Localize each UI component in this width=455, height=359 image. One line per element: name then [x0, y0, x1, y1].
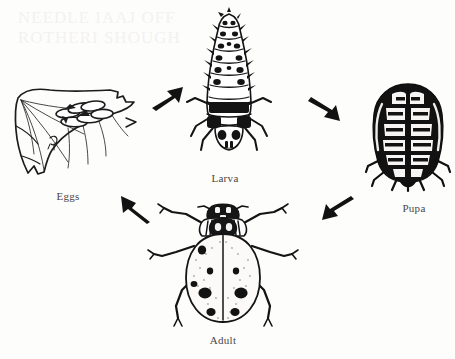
arrow-pupa-to-adult — [320, 196, 356, 224]
arrow-larva-to-pupa — [306, 96, 342, 124]
stage-pupa — [366, 82, 450, 194]
eggs-on-leaf-illustration — [10, 78, 155, 183]
life-cycle-diagram: NEEDLE IAAJ OFF ROTHERI SHOUGH — [0, 0, 455, 359]
arrow-eggs-to-larva — [150, 84, 186, 112]
adult-ladybug-illustration — [148, 198, 298, 332]
larva-illustration — [183, 10, 275, 170]
stage-larva — [183, 10, 275, 170]
stage-eggs — [10, 78, 155, 183]
arrow-adult-to-eggs — [120, 194, 154, 224]
scan-ghost-text: NEEDLE IAAJ OFF — [18, 8, 176, 28]
stage-label-larva: Larva — [196, 172, 254, 184]
stage-adult — [148, 198, 298, 332]
stage-label-eggs: Eggs — [46, 190, 90, 202]
scan-ghost-text: ROTHERI SHOUGH — [18, 28, 181, 48]
stage-label-pupa: Pupa — [390, 202, 438, 214]
stage-label-adult: Adult — [198, 334, 248, 346]
pupa-illustration — [366, 82, 450, 194]
